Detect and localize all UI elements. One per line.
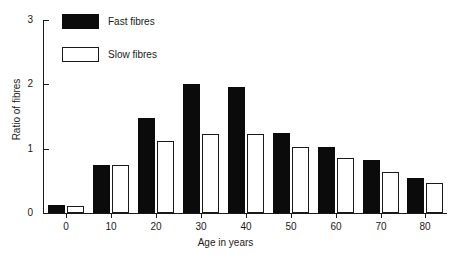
x-axis-title: Age in years bbox=[0, 237, 451, 248]
bar-fast-age-40 bbox=[228, 87, 245, 213]
bar-fast-age-20 bbox=[138, 118, 155, 213]
x-axis-tick-mark bbox=[336, 213, 337, 218]
x-axis-tick-mark bbox=[201, 213, 202, 218]
y-axis-tick-mark bbox=[43, 84, 49, 85]
bar-slow-age-10 bbox=[112, 165, 129, 213]
bar-slow-age-50 bbox=[292, 147, 309, 213]
x-axis-tick-mark bbox=[246, 213, 247, 218]
y-axis-tick-label: 3 bbox=[19, 15, 33, 25]
legend-label: Fast fibres bbox=[108, 16, 155, 27]
x-axis-tick-label: 50 bbox=[276, 221, 306, 232]
x-axis-tick-mark bbox=[425, 213, 426, 218]
y-axis-tick-label-wrap: 2 bbox=[0, 79, 43, 89]
y-axis-tick-label-wrap: 3 bbox=[0, 15, 43, 25]
x-axis-tick-mark bbox=[111, 213, 112, 218]
bar-slow-age-0 bbox=[67, 206, 84, 213]
x-axis-tick-label: 0 bbox=[51, 221, 81, 232]
bar-fast-age-50 bbox=[273, 133, 290, 213]
y-axis-tick-mark bbox=[43, 149, 49, 150]
x-axis-tick-label: 80 bbox=[410, 221, 440, 232]
bar-fast-age-60 bbox=[318, 147, 335, 213]
bar-fast-age-80 bbox=[407, 178, 424, 213]
y-axis-tick-label: 0 bbox=[19, 208, 33, 218]
y-axis-line bbox=[43, 20, 44, 214]
x-axis-tick-label: 60 bbox=[321, 221, 351, 232]
legend-label: Slow fibres bbox=[108, 49, 157, 60]
x-axis-tick-mark bbox=[381, 213, 382, 218]
bar-fast-age-0 bbox=[48, 205, 65, 213]
y-axis-tick-mark bbox=[43, 20, 49, 21]
x-axis-line bbox=[43, 213, 447, 214]
bar-slow-age-80 bbox=[426, 183, 443, 213]
x-axis-tick-mark bbox=[291, 213, 292, 218]
x-axis-tick-label: 40 bbox=[231, 221, 261, 232]
bar-slow-age-40 bbox=[247, 134, 264, 213]
x-axis-tick-label: 20 bbox=[141, 221, 171, 232]
x-axis-tick-label: 30 bbox=[186, 221, 216, 232]
bar-fast-age-70 bbox=[363, 160, 380, 213]
bar-slow-age-20 bbox=[157, 141, 174, 213]
x-axis-tick-mark bbox=[66, 213, 67, 218]
x-axis-tick-label: 10 bbox=[96, 221, 126, 232]
x-axis-tick-mark bbox=[156, 213, 157, 218]
legend-swatch-fast-fibres bbox=[62, 14, 99, 29]
bar-slow-age-60 bbox=[337, 158, 354, 213]
y-axis-tick-label-wrap: 1 bbox=[0, 144, 43, 154]
y-axis-tick-label-wrap: 0 bbox=[0, 208, 43, 218]
bar-chart-figure: 0123 Ratio of fibres 01020304050607080 A… bbox=[0, 0, 451, 260]
bar-slow-age-30 bbox=[202, 134, 219, 213]
x-axis-tick-label: 70 bbox=[366, 221, 396, 232]
bar-fast-age-30 bbox=[183, 84, 200, 213]
legend-swatch-slow-fibres bbox=[62, 47, 99, 62]
y-axis-title: Ratio of fibres bbox=[11, 55, 22, 165]
bar-fast-age-10 bbox=[93, 165, 110, 213]
bar-slow-age-70 bbox=[382, 172, 399, 213]
